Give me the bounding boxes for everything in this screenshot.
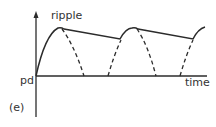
y-axis-label: pd bbox=[20, 74, 34, 87]
x-axis-label: time bbox=[185, 76, 210, 89]
smoothed-output-curve bbox=[36, 27, 205, 76]
ripple-diagram: ripple pd time (e) bbox=[0, 0, 216, 127]
panel-label: (e) bbox=[9, 101, 24, 114]
y-axis-arrow-icon bbox=[34, 11, 39, 18]
ripple-label: ripple bbox=[51, 9, 83, 22]
